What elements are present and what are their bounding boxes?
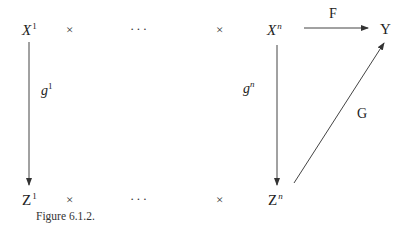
ellipsis-top: ··· [130,22,149,35]
node-x1-sup: 1 [32,21,37,31]
label-gn-sup: n [250,79,255,89]
label-g1-sup: 1 [48,81,53,91]
node-xn-sup: n [277,21,282,31]
node-xn-base: X [267,22,276,38]
ellipsis-bottom: ··· [130,192,149,205]
label-G: G [357,107,367,121]
times-top-2: × [216,23,223,36]
node-y: Y [380,22,391,37]
node-x1-base: X [22,22,31,38]
label-g1-base: g [41,83,48,98]
label-gn: gn [243,80,255,96]
figure-caption: Figure 6.1.2. [36,211,95,223]
label-F: F [329,7,337,21]
node-x1: X1 [22,22,37,38]
times-bottom-1: × [66,193,73,206]
node-xn: Xn [267,22,282,38]
times-top-1: × [66,23,73,36]
node-zn: Zn [268,192,283,208]
node-z1: Z1 [22,192,37,208]
node-zn-base: Z [268,192,277,208]
node-zn-sup: n [278,191,283,201]
arrow-layer [0,0,411,232]
times-bottom-2: × [216,193,223,206]
node-z1-sup: 1 [32,191,37,201]
node-z1-base: Z [22,192,31,208]
arrow-G [294,43,384,183]
label-g1: g1 [41,82,53,98]
label-gn-base: g [243,81,250,96]
